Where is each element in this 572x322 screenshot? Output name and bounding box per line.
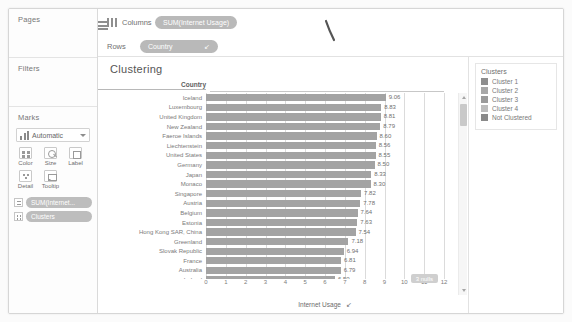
bar[interactable] xyxy=(206,190,361,197)
columns-pill-label: SUM(Internet Usage) xyxy=(163,19,229,26)
bar-cell: 7.18 xyxy=(206,237,444,247)
label-icon xyxy=(69,147,82,159)
bar-row[interactable]: Luxembourg8.83 xyxy=(98,103,444,113)
bar-row[interactable]: Germany8.50 xyxy=(98,160,444,170)
rows-pill[interactable]: Country ↙ xyxy=(140,40,218,53)
bar-value-label: 7.54 xyxy=(359,229,371,235)
bar[interactable] xyxy=(206,94,386,101)
bar[interactable] xyxy=(206,161,375,168)
bar-row[interactable]: Singapore7.82 xyxy=(98,189,444,199)
pages-shelf[interactable]: Pages xyxy=(9,9,97,57)
bar[interactable] xyxy=(206,257,341,264)
bar-row[interactable]: Australia6.79 xyxy=(98,266,444,276)
bar[interactable] xyxy=(206,123,380,130)
bar-row[interactable]: New Zealand8.79 xyxy=(98,122,444,132)
bar[interactable] xyxy=(206,267,341,274)
scroll-up-arrow[interactable] xyxy=(459,93,468,102)
bar-row-label: Austria xyxy=(98,200,206,206)
bar[interactable] xyxy=(206,142,376,149)
marks-size-button[interactable]: Size xyxy=(38,147,63,166)
bar[interactable] xyxy=(206,200,360,207)
bar-cell: 7.54 xyxy=(206,227,444,237)
bar[interactable] xyxy=(206,113,381,120)
bar-row[interactable]: Iceland9.06 xyxy=(98,93,444,103)
bar-row-label: Australia xyxy=(98,267,206,273)
bar[interactable] xyxy=(206,248,344,255)
filters-label: Filters xyxy=(9,58,97,73)
marks-pill-list: SUM(Internet... Clusters xyxy=(9,193,97,222)
bar-row-label: Iceland xyxy=(98,95,206,101)
bar[interactable] xyxy=(206,238,348,245)
bar[interactable] xyxy=(206,132,377,139)
bar[interactable] xyxy=(206,219,357,226)
legend-title: Clusters xyxy=(481,68,551,75)
columns-pill[interactable]: SUM(Internet Usage) xyxy=(155,16,237,29)
marks-label-button[interactable]: Label xyxy=(63,147,88,166)
nulls-badge[interactable]: 3 nulls xyxy=(411,274,438,283)
bar[interactable] xyxy=(206,152,376,159)
shelves-area: Columns SUM(Internet Usage) Rows Country… xyxy=(98,9,563,57)
left-sidebar: Pages Filters Marks Automatic Color xyxy=(9,9,98,314)
bar-cell: 8.50 xyxy=(206,160,444,170)
bar-value-label: 8.60 xyxy=(380,133,392,139)
bar-row[interactable]: Japan8.33 xyxy=(98,170,444,180)
rows-pill-label: Country xyxy=(148,43,173,50)
columns-shelf[interactable]: Columns SUM(Internet Usage) xyxy=(98,12,563,33)
marks-pill-row[interactable]: SUM(Internet... xyxy=(14,197,92,208)
bar-cell: 7.64 xyxy=(206,208,444,218)
x-axis-tick: 7 xyxy=(343,279,346,285)
marks-detail-button[interactable]: Detail xyxy=(13,170,38,189)
bar-row[interactable]: Faeroe Islands8.60 xyxy=(98,131,444,141)
legend-item[interactable]: Cluster 4 xyxy=(481,105,551,112)
bar[interactable] xyxy=(206,171,371,178)
bar-row[interactable]: Belgium7.64 xyxy=(98,208,444,218)
bar-cell: 6.94 xyxy=(206,247,444,257)
bar-row-label: Ireland xyxy=(98,277,206,279)
legend-panel: Clusters Cluster 1Cluster 2Cluster 3Clus… xyxy=(468,57,563,313)
bar-cell: 8.60 xyxy=(206,131,444,141)
bar[interactable] xyxy=(206,180,371,187)
bar-value-label: 8.33 xyxy=(374,171,386,177)
scroll-down-arrow[interactable] xyxy=(459,286,468,295)
legend-swatch xyxy=(481,87,488,94)
bar-row[interactable]: Liechtenstein8.56 xyxy=(98,141,444,151)
bar-row-label: Liechtenstein xyxy=(98,143,206,149)
bar-row[interactable]: Greenland7.18 xyxy=(98,237,444,247)
bar-row[interactable]: Austria7.78 xyxy=(98,199,444,209)
marks-pill-label: Clusters xyxy=(26,211,92,222)
filters-shelf[interactable]: Filters xyxy=(9,58,97,106)
marks-tooltip-label: Tooltip xyxy=(38,183,63,189)
bar-value-label: 8.50 xyxy=(378,161,390,167)
bar-row-label: Estonia xyxy=(98,220,206,226)
bar-row[interactable]: United Kingdom8.81 xyxy=(98,112,444,122)
marks-pill-row[interactable]: Clusters xyxy=(14,211,92,222)
bar-row-label: Japan xyxy=(98,172,206,178)
bar[interactable] xyxy=(206,209,358,216)
bar[interactable] xyxy=(206,228,356,235)
legend-swatch xyxy=(481,105,488,112)
scrollbar-thumb[interactable] xyxy=(460,104,467,126)
rows-shelf[interactable]: Rows Country ↙ xyxy=(98,36,563,57)
x-axis-tick: 8 xyxy=(363,279,366,285)
legend-item[interactable]: Not Clustered xyxy=(481,114,551,121)
bar-row[interactable]: Slovak Republic6.94 xyxy=(98,247,444,257)
x-axis-tick: 3 xyxy=(264,279,267,285)
marks-size-label: Size xyxy=(38,160,63,166)
marks-type-dropdown[interactable]: Automatic xyxy=(16,128,90,142)
x-axis-tick: 10 xyxy=(401,279,408,285)
legend-item[interactable]: Cluster 2 xyxy=(481,87,551,94)
x-axis-tick: 4 xyxy=(284,279,287,285)
bar-row[interactable]: Estonia7.63 xyxy=(98,218,444,228)
bar-row[interactable]: United States8.55 xyxy=(98,151,444,161)
legend-item[interactable]: Cluster 3 xyxy=(481,96,551,103)
marks-tooltip-button[interactable]: Tooltip xyxy=(38,170,63,189)
legend-item[interactable]: Cluster 1 xyxy=(481,78,551,85)
bar-row[interactable]: Hong Kong SAR, China7.54 xyxy=(98,227,444,237)
bar-value-label: 6.79 xyxy=(344,267,356,273)
vertical-scrollbar[interactable] xyxy=(458,93,467,295)
marks-type-value: Automatic xyxy=(32,132,63,139)
bar-row[interactable]: France6.81 xyxy=(98,256,444,266)
marks-color-button[interactable]: Color xyxy=(13,147,38,166)
bar-row[interactable]: Monaco8.30 xyxy=(98,179,444,189)
bar[interactable] xyxy=(206,104,381,111)
